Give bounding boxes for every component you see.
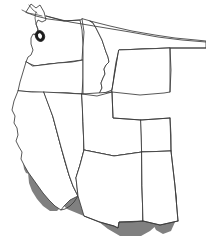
state-outline-oregon (18, 60, 83, 94)
state-outline-wyoming (112, 48, 170, 95)
state-outline-colorado (141, 118, 171, 152)
border-utah-wyoming-notch (112, 92, 141, 120)
state-outline-washington (26, 4, 83, 66)
map-canvas (0, 0, 206, 241)
range-map-figure (0, 0, 206, 241)
state-outline-arizona (76, 150, 143, 228)
